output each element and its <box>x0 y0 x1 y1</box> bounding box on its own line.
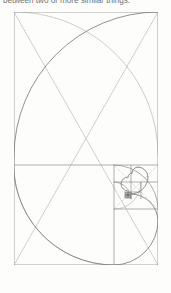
dotted-arc-lower-left <box>14 165 114 265</box>
nest-diagonal-2 <box>114 165 158 209</box>
nest-construction-lines <box>114 165 158 209</box>
spiral-arc-8 <box>128 173 132 177</box>
dotted-arc-top-left <box>14 12 158 156</box>
spiral-arc-3 <box>114 221 158 265</box>
scanned-page: between two or more similar things. <box>0 0 171 293</box>
golden-ratio-figure <box>0 0 171 293</box>
spiral-arc-2 <box>14 156 114 265</box>
square-subdivisions <box>14 165 158 265</box>
spiral-arc-4 <box>131 194 158 221</box>
spiral-arc-1 <box>14 12 158 156</box>
spiral-arc-5 <box>131 177 148 194</box>
